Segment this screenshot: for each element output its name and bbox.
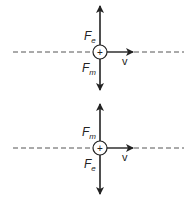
velocity-label: v: [122, 55, 128, 67]
charge-symbol: +: [97, 47, 103, 58]
force-label-up: Fm: [82, 125, 96, 141]
charge-symbol: +: [97, 143, 103, 154]
force-label-up: Fe: [84, 29, 96, 45]
force-label-down: Fm: [82, 61, 96, 77]
diagram-top: + Fe Fm v: [13, 6, 184, 90]
force-diagrams: + Fe Fm v + Fm Fe v: [0, 0, 193, 205]
force-label-down: Fe: [84, 157, 96, 173]
velocity-label: v: [122, 151, 128, 163]
diagram-bottom: + Fm Fe v: [13, 104, 184, 194]
